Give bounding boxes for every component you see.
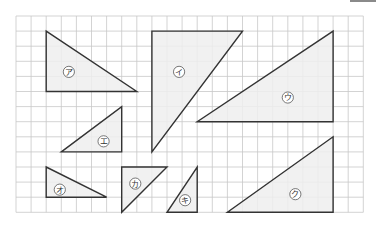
triangle-label: キ xyxy=(181,196,189,205)
triangle-label: エ xyxy=(100,137,108,146)
triangle-label: ア xyxy=(65,68,73,77)
triangle-label: オ xyxy=(56,186,64,195)
triangle-shape xyxy=(122,167,167,212)
triangle-label: ウ xyxy=(284,93,292,102)
triangle-label: カ xyxy=(131,180,139,189)
triangle-shape xyxy=(227,137,333,213)
triangle-label: イ xyxy=(175,68,183,77)
triangle-grid-figure: アイウエオカキク xyxy=(0,0,376,248)
triangle-label: ク xyxy=(291,190,299,199)
triangle-ku: ク xyxy=(227,137,333,213)
triangle-ka: カ xyxy=(122,167,167,212)
